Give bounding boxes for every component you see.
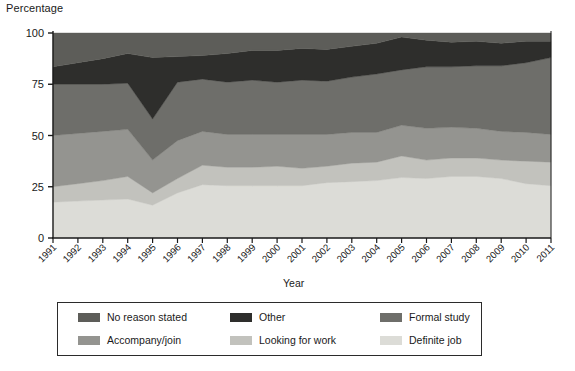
y-axis-tick-label: 25 (32, 181, 44, 193)
x-axis-tick-label: 1997 (185, 242, 208, 265)
x-axis-tick-label: 1995 (135, 242, 158, 265)
x-axis-tick-label: 2003 (334, 242, 357, 265)
x-axis-tick-label: 2002 (309, 242, 332, 265)
x-axis-tick-label: 1991 (36, 242, 59, 265)
x-axis-tick-label: 1993 (85, 242, 108, 265)
x-axis-tick-label: 2009 (484, 242, 507, 265)
x-axis-tick-label: 1998 (210, 242, 233, 265)
y-axis-tick-label: 100 (26, 27, 44, 39)
x-axis-tick-label: 2001 (285, 242, 308, 265)
y-axis-tick-label: 0 (38, 232, 44, 244)
x-axis-tick-label: 1992 (60, 242, 83, 265)
legend-color-swatch (230, 336, 252, 345)
legend-color-swatch (380, 336, 402, 345)
x-axis-tick-label: 1996 (160, 242, 183, 265)
stacked-area-plot: 0255075100199119921993199419951996199719… (0, 0, 575, 300)
legend-item-label: Definite job (409, 335, 462, 346)
legend-item-label: Other (259, 312, 285, 323)
chart-container: Percentage Year 025507510019911992199319… (0, 0, 575, 371)
x-axis-tick-label: 1999 (235, 242, 258, 265)
legend-color-swatch (78, 313, 100, 322)
legend-color-swatch (380, 313, 402, 322)
legend-item-label: Looking for work (259, 335, 336, 346)
x-axis-tick-label: 2005 (384, 242, 407, 265)
legend-item[interactable]: No reason stated (78, 312, 230, 323)
legend-item[interactable]: Other (230, 312, 380, 323)
y-axis-tick-label: 75 (32, 78, 44, 90)
x-axis-tick-label: 2007 (434, 242, 457, 265)
legend-item[interactable]: Definite job (380, 335, 503, 346)
x-axis-tick-label: 2000 (260, 242, 283, 265)
legend-item[interactable]: Accompany/join (78, 335, 230, 346)
x-axis-tick-label: 2006 (409, 242, 432, 265)
x-axis-tick-label: 2011 (534, 242, 556, 264)
legend-item-label: No reason stated (107, 312, 187, 323)
chart-legend: No reason statedOtherFormal studyAccompa… (57, 302, 482, 356)
legend-color-swatch (78, 336, 100, 345)
y-axis-tick-label: 50 (32, 130, 44, 142)
x-axis-tick-label: 2010 (509, 242, 532, 265)
legend-item[interactable]: Formal study (380, 312, 503, 323)
legend-item-label: Formal study (409, 312, 470, 323)
legend-color-swatch (230, 313, 252, 322)
x-axis-tick-label: 2008 (459, 242, 482, 265)
legend-item-label: Accompany/join (107, 335, 181, 346)
x-axis-tick-label: 1994 (110, 241, 133, 264)
legend-item[interactable]: Looking for work (230, 335, 380, 346)
x-axis-tick-label: 2004 (359, 241, 382, 264)
